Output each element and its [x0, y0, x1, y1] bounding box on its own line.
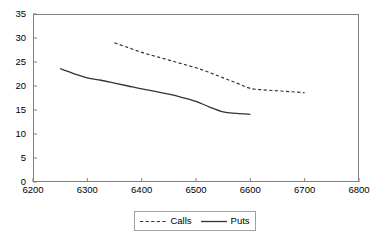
series-line-puts	[60, 69, 250, 115]
y-axis-tick-marks	[33, 14, 37, 182]
legend-swatch-calls-icon	[140, 218, 166, 225]
chart-canvas	[0, 0, 382, 238]
series-line-calls	[115, 43, 305, 93]
legend-swatch-puts-icon	[201, 218, 227, 225]
chart-legend: Calls Puts	[134, 211, 256, 231]
legend-label-calls: Calls	[170, 216, 191, 226]
legend-item-calls: Calls	[140, 216, 191, 226]
x-axis-tick-marks	[33, 178, 359, 182]
line-chart: 05101520253035 6200630064006500660067006…	[0, 0, 382, 238]
legend-label-puts: Puts	[231, 216, 250, 226]
legend-item-puts: Puts	[201, 216, 250, 226]
